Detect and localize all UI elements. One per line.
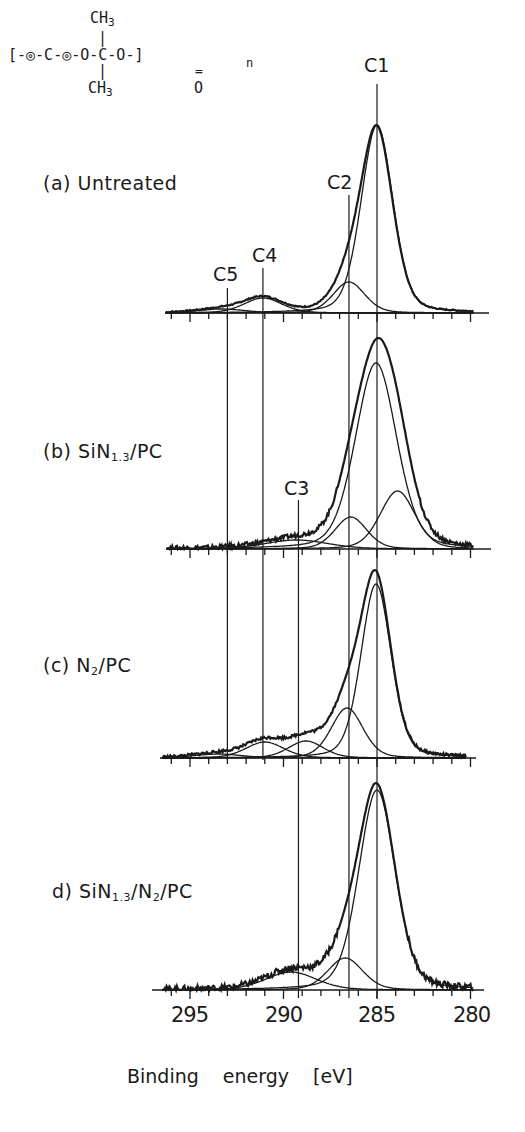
envelope-spectrum-panel-0 (166, 125, 474, 312)
formula-subscript-n: n (246, 55, 253, 71)
panel-d-suffix: /PC (160, 880, 193, 902)
x-axis-title: Binding energy [eV] (127, 1065, 353, 1087)
panel-b-label: (b) SiN1.3/PC (43, 440, 163, 464)
peak-label-c1: C1 (364, 54, 389, 76)
panel-d-label: d) SiN1.3/N2/PC (52, 880, 193, 904)
panel-d-prefix: d) SiN (52, 880, 112, 902)
panel-c-suffix: /PC (99, 654, 132, 676)
panel-d-mid: /N (131, 880, 153, 902)
formula-bond-bottom: | (98, 63, 107, 79)
x-tick-280: 280 (453, 1003, 490, 1027)
component-c1 (162, 790, 473, 990)
panel-b-prefix: (b) SiN (43, 440, 111, 462)
formula-main: [-◎-C-◎-O-C-O-] (8, 47, 143, 63)
panel-b-suffix: /PC (130, 440, 163, 462)
peak-label-c2: C2 (327, 171, 352, 193)
formula-ch3-bottom: CH3 (88, 80, 113, 101)
formula-ch3-top: CH3 (90, 10, 115, 31)
component-c1 (166, 125, 474, 313)
chemical-formula: CH3 | [-◎-C-◎-O-C-O-] n | CH3 = O (8, 0, 218, 100)
panel-d-sub1: 1.3 (112, 891, 131, 904)
peak-label-c5: C5 (213, 263, 238, 285)
panel-b-sub: 1.3 (111, 451, 130, 464)
x-tick-290: 290 (265, 1003, 302, 1027)
panel-c-label: (c) N2/PC (43, 654, 131, 678)
envelope-spectrum-panel-3 (162, 783, 473, 990)
panel-c-prefix: (c) N (43, 654, 91, 676)
xps-spectra-plot (0, 0, 525, 1132)
envelope-spectrum-panel-2 (162, 570, 466, 758)
peak-label-c4: C4 (252, 244, 277, 266)
panel-a-label: (a) Untreated (43, 172, 177, 194)
panel-c-sub: 2 (91, 665, 99, 678)
x-tick-295: 295 (171, 1003, 208, 1027)
x-tick-285: 285 (358, 1003, 395, 1027)
peak-label-c3: C3 (284, 477, 309, 499)
formula-bond-top: | (98, 30, 107, 46)
formula-oxygen: O (194, 80, 203, 96)
formula-double-bond: = (195, 63, 203, 79)
envelope-spectrum-panel-1 (167, 338, 474, 549)
